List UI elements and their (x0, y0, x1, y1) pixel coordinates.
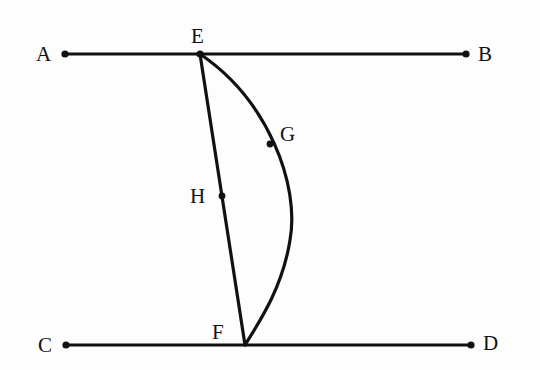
segment-ef (200, 54, 245, 345)
point-h-dot (219, 193, 226, 200)
point-g-dot (267, 141, 274, 148)
point-d-dot (467, 341, 474, 348)
point-c-dot (62, 341, 69, 348)
label-c: C (38, 333, 52, 357)
label-a: A (36, 42, 52, 66)
label-g: G (280, 122, 295, 146)
geometry-diagram: A E B G H F C D (0, 0, 540, 370)
label-d: D (483, 331, 498, 355)
point-e-dot (196, 50, 203, 57)
arc-egf (200, 54, 292, 345)
label-h: H (190, 184, 205, 208)
label-b: B (478, 42, 492, 66)
point-b-dot (462, 50, 469, 57)
point-a-dot (61, 50, 68, 57)
label-f: F (212, 320, 224, 344)
label-e: E (191, 24, 204, 48)
diagram-canvas: A E B G H F C D (0, 0, 540, 370)
